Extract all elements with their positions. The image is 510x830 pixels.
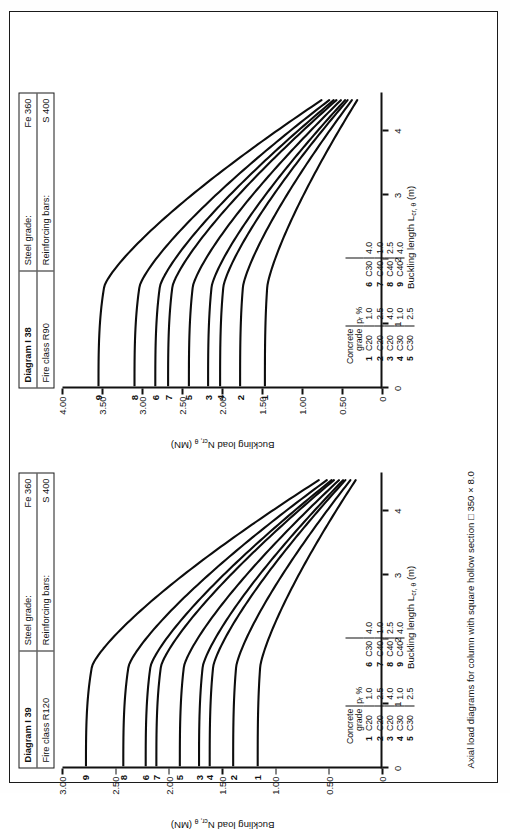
legend-pr: 1.0	[394, 304, 404, 326]
legend-index: 7	[374, 658, 384, 668]
legend-grade: C40	[374, 258, 384, 278]
legend-pr: 2.5	[384, 238, 394, 258]
legend-pr: 4.0	[384, 304, 394, 326]
y-tick	[381, 768, 383, 774]
legend-row: 1C201.06C304.0	[363, 618, 373, 745]
legend-header-grade: Concretegrade	[345, 326, 363, 366]
x-tick-label: 4	[391, 128, 402, 133]
legend-row: 5C302.5	[404, 238, 414, 365]
x-tick	[382, 766, 388, 768]
legend-index: 9	[394, 658, 404, 668]
legend-pr: 1.0	[394, 684, 404, 706]
curve-label-7: 7	[150, 774, 161, 779]
legend-grade: C20	[363, 706, 373, 733]
legend-index: 5	[404, 733, 414, 746]
y-tick	[221, 768, 223, 774]
y-tick	[221, 388, 223, 394]
legend-pr: 1.0	[363, 304, 373, 326]
curve-label-2: 2	[227, 774, 238, 779]
curve-7	[168, 100, 336, 386]
curve-svg	[62, 472, 380, 766]
y-tick	[341, 388, 343, 394]
diagram-label-i38: Diagram I 38	[19, 271, 37, 387]
legend-grade: C30	[404, 706, 414, 733]
legend-grade: C20	[374, 706, 384, 733]
steel-grade-value-i39: Fe 360	[22, 478, 32, 507]
y-tick-label: 1.50	[257, 396, 268, 434]
rebar-label-i39: Reinforcing bars:	[40, 575, 50, 645]
y-tick-label: 2.00	[163, 776, 174, 814]
legend-row: 2C202.57C401.0	[374, 618, 384, 745]
legend-index: 4	[394, 353, 404, 366]
legend-index: 3	[384, 353, 394, 366]
curve-4	[209, 480, 345, 766]
y-tick	[275, 768, 277, 774]
curve-label-9: 9	[93, 394, 104, 399]
legend-pr: 1.0	[374, 238, 384, 258]
curve-label-1: 1	[252, 774, 263, 779]
figure-frame: Diagram I 39 Fire class R120 Steel grade…	[9, 11, 498, 783]
y-tick-label: 1.50	[217, 776, 228, 814]
legend-pr: 2.5	[404, 684, 414, 706]
x-tick	[382, 193, 388, 195]
legend-grade: C40	[384, 258, 394, 278]
curve-label-7: 7	[162, 394, 173, 399]
legend-header-pr: pᵣ %	[345, 304, 363, 326]
y-tick	[115, 768, 117, 774]
fire-class-i38: Fire class R90	[37, 271, 54, 387]
legend-pr: 1.0	[374, 618, 384, 638]
curve-label-1: 1	[259, 394, 270, 399]
legend-grade: C20	[384, 706, 394, 733]
x-tick	[382, 386, 388, 388]
y-tick	[328, 768, 330, 774]
rebar-value-i39: S 400	[40, 478, 50, 502]
y-tick-label: 4.00	[57, 396, 68, 434]
legend-index: 1	[363, 733, 373, 746]
legend-table: Concretegradepᵣ %1C201.06C304.02C202.57C…	[345, 238, 414, 365]
legend-pr: 4.0	[394, 238, 404, 258]
legend-i39: Concretegradepᵣ %1C201.06C304.02C202.57C…	[345, 618, 414, 745]
y-tick	[181, 388, 183, 394]
curve-label-6: 6	[149, 394, 160, 399]
legend-pr: 4.0	[384, 684, 394, 706]
panel-diagram-i38: Diagram I 38 Fire class R90 Steel grade:…	[18, 28, 448, 388]
y-axis-title: Buckling load Ncr, θ (MN)	[170, 437, 274, 450]
legend-pr: 2.5	[374, 684, 384, 706]
curve-label-3: 3	[202, 394, 213, 399]
legend-index: 6	[363, 658, 373, 668]
panel-diagram-i39: Diagram I 39 Fire class R120 Steel grade…	[18, 408, 448, 768]
legend-index: 2	[374, 733, 384, 746]
y-tick	[141, 388, 143, 394]
rebar-row-i38: Reinforcing bars: S 400	[37, 93, 54, 270]
legend-grade: C30	[394, 706, 404, 733]
y-tick-label: 0.50	[323, 776, 334, 814]
curve-label-3: 3	[193, 774, 204, 779]
steel-grade-row-i38: Steel grade: Fe 360	[19, 93, 37, 270]
figure-caption: Axial load diagrams for column with squa…	[464, 28, 475, 768]
legend-index: 1	[363, 353, 373, 366]
curve-9	[85, 480, 318, 766]
legend-i38: Concretegradepᵣ %1C201.06C304.02C202.57C…	[345, 238, 414, 365]
legend-pr: 4.0	[394, 618, 404, 638]
y-tick-label: 3.50	[97, 396, 108, 434]
rebar-row-i39: Reinforcing bars: S 400	[37, 473, 54, 650]
y-tick	[61, 768, 63, 774]
legend-index: 8	[384, 278, 394, 288]
legend-row: 2C202.57C401.0	[374, 238, 384, 365]
legend-header-pr: pᵣ %	[345, 684, 363, 706]
legend-grade: C40	[394, 258, 404, 278]
curve-label-9: 9	[80, 774, 91, 779]
legend-pr: 2.5	[374, 304, 384, 326]
legend-grade: C30	[394, 326, 404, 353]
curve-label-6: 6	[140, 774, 151, 779]
legend-row: 3C204.08C402.5	[384, 618, 394, 745]
legend-index: 5	[404, 353, 414, 366]
legend-header-grade: Concretegrade	[345, 706, 363, 746]
legend-grade: C20	[374, 326, 384, 353]
curve-2	[233, 480, 350, 766]
steel-grade-value-i38: Fe 360	[22, 98, 32, 127]
x-tick	[382, 573, 388, 575]
curve-label-8: 8	[117, 774, 128, 779]
steel-grade-row-i39: Steel grade: Fe 360	[19, 473, 37, 650]
header-box-i38: Diagram I 38 Fire class R90 Steel grade:…	[18, 92, 54, 388]
